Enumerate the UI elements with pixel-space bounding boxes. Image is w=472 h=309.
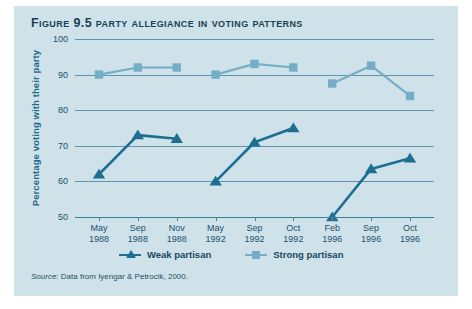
y-tick-label: 60 <box>58 176 68 186</box>
data-point-marker <box>173 63 181 71</box>
y-tick-label: 80 <box>58 105 68 115</box>
data-point-marker <box>250 60 258 68</box>
y-tick-label: 70 <box>58 141 68 151</box>
y-tick-label: 100 <box>53 34 68 44</box>
y-axis-title: Percentage voting with their party <box>30 39 44 217</box>
x-tick-year: 1988 <box>167 234 187 244</box>
x-tick-year: 1992 <box>206 234 226 244</box>
x-tick-year: 1996 <box>322 234 342 244</box>
x-tick-mark <box>99 217 100 221</box>
x-tick-mark <box>255 217 256 221</box>
x-tick-month: Sep <box>130 223 146 233</box>
x-tick-label: Oct1996 <box>400 223 420 244</box>
x-tick-month: Sep <box>363 223 379 233</box>
x-tick-year: 1992 <box>244 234 264 244</box>
figure-panel: Figure 9.5 Party Allegiance in Voting Pa… <box>14 6 458 296</box>
x-tick-mark <box>332 217 333 221</box>
square-marker-icon <box>245 249 267 260</box>
data-point-marker <box>95 70 103 78</box>
x-tick-mark <box>138 217 139 221</box>
x-tick-label: Feb1996 <box>322 223 342 244</box>
x-tick-year: 1988 <box>128 234 148 244</box>
x-tick-label: Oct1992 <box>283 223 303 244</box>
data-point-marker <box>406 92 414 100</box>
x-tick-month: Oct <box>403 223 417 233</box>
x-tick-month: Sep <box>246 223 262 233</box>
data-point-marker <box>367 62 375 70</box>
x-tick-month: Feb <box>324 223 340 233</box>
x-tick-year: 1996 <box>400 234 420 244</box>
triangle-marker-icon <box>119 249 141 260</box>
legend-item: Strong partisan <box>245 249 343 260</box>
x-tick-label: Nov1988 <box>167 223 187 244</box>
chart-legend: Weak partisanStrong partisan <box>119 249 343 260</box>
x-tick-mark <box>216 217 217 221</box>
x-tick-mark <box>293 217 294 221</box>
series-line <box>332 66 410 96</box>
x-tick-label: Sep1992 <box>244 223 264 244</box>
x-tick-mark <box>410 217 411 221</box>
x-tick-mark <box>371 217 372 221</box>
series-line <box>216 128 294 181</box>
plot-area: 5060708090100 <box>75 39 434 217</box>
legend-label: Weak partisan <box>147 249 211 260</box>
x-tick-year: 1992 <box>283 234 303 244</box>
data-point-marker <box>134 63 142 71</box>
x-tick-label: May1988 <box>89 223 109 244</box>
source-label: Source: <box>31 272 59 281</box>
source-text: Data from Iyengar & Petrocik, 2000. <box>59 272 188 281</box>
x-tick-label: May1992 <box>206 223 226 244</box>
series-strong-partisan <box>95 60 414 100</box>
legend-item: Weak partisan <box>119 249 211 260</box>
y-tick-label: 50 <box>58 212 68 222</box>
series-weak-partisan <box>93 122 416 221</box>
series-line <box>99 135 177 174</box>
x-tick-month: May <box>90 223 107 233</box>
data-point-marker <box>289 63 297 71</box>
x-tick-year: 1996 <box>361 234 381 244</box>
x-tick-year: 1988 <box>89 234 109 244</box>
chart-plot: Percentage voting with their party 50607… <box>14 6 458 296</box>
x-tick-label: Sep1988 <box>128 223 148 244</box>
data-point-marker <box>287 122 299 132</box>
data-point-marker <box>328 79 336 87</box>
data-point-marker <box>404 153 416 163</box>
source-note: Source: Data from Iyengar & Petrocik, 20… <box>31 272 188 281</box>
x-tick-mark <box>177 217 178 221</box>
x-tick-month: Nov <box>169 223 185 233</box>
legend-label: Strong partisan <box>273 249 343 260</box>
data-point-marker <box>211 70 219 78</box>
x-tick-label: Sep1996 <box>361 223 381 244</box>
y-tick-label: 90 <box>58 70 68 80</box>
series-layer <box>75 39 434 217</box>
x-tick-month: May <box>207 223 224 233</box>
x-tick-month: Oct <box>286 223 300 233</box>
